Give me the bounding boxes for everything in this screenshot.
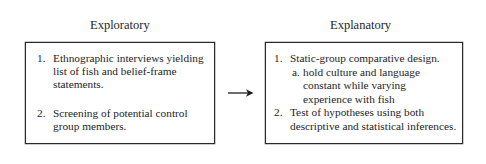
subitem-text-line: hold culture and language [303,66,420,79]
item-text-line: group members. [53,120,126,133]
item-text-line: descriptive and statistical inferences. [290,120,456,133]
item-text-line: Static-group comparative design. [290,52,440,65]
exploratory-title: Exploratory [90,18,150,33]
explanatory-title: Explanatory [330,18,391,33]
right-arrow-icon [228,87,254,99]
item-number: 2. [274,106,282,119]
subitem-text-line: constant while varying [303,79,406,92]
item-text-line: statements. [53,78,104,91]
item-number: 2. [37,107,45,120]
subitem-letter: a. [292,66,300,79]
exploratory-box: 1. Ethnographic interviews yielding list… [25,42,215,144]
item-number: 1. [274,52,282,65]
item-text-line: Test of hypotheses using both [290,106,424,119]
item-text-line: Screening of potential control [53,107,188,120]
explanatory-box: 1. Static-group comparative design. a. h… [265,42,463,144]
subitem-text-line: experience with fish [303,93,395,106]
item-number: 1. [37,52,45,65]
item-text-line: list of fish and belief-frame [53,65,177,78]
item-text-line: Ethnographic interviews yielding [53,52,204,65]
